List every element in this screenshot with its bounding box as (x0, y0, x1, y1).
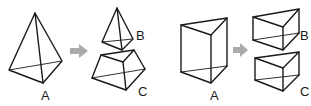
label-prism-c: C (300, 84, 309, 99)
pyramid-b (102, 8, 133, 50)
prism-c (255, 52, 299, 91)
right-arrow-icon (233, 43, 248, 57)
label-pyramid-b: B (136, 28, 145, 43)
pyramid-a (9, 13, 62, 83)
label-prism-a: A (210, 88, 219, 103)
label-frustum-c: C (138, 84, 147, 99)
prism-a (181, 18, 227, 83)
right-arrow-icon (70, 44, 88, 58)
label-prism-b: B (300, 28, 309, 43)
label-pyramid-a: A (41, 88, 50, 103)
solids-cutting-diagram: A B C A (0, 0, 311, 106)
prism-b (253, 9, 299, 50)
